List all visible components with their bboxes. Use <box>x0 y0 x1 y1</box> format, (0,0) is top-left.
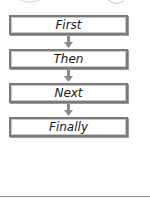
step-box-next: Next <box>9 83 128 103</box>
step-box-first: First <box>9 15 128 35</box>
step-label: Next <box>54 87 82 99</box>
top-decoration <box>0 0 150 6</box>
down-arrow-icon <box>64 70 73 82</box>
down-arrow-icon <box>64 36 73 48</box>
step-label: Finally <box>49 121 88 133</box>
step-label: Then <box>54 53 84 65</box>
down-arrow-icon <box>64 104 73 116</box>
step-box-finally: Finally <box>9 117 128 137</box>
step-label: First <box>55 19 81 31</box>
step-box-then: Then <box>9 49 128 69</box>
bottom-divider <box>0 196 150 197</box>
